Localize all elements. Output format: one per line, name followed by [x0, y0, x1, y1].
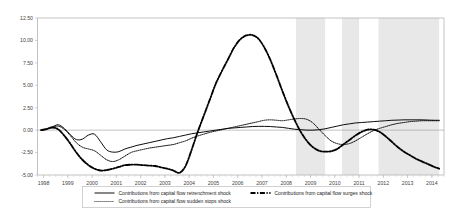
x-tick-label: 2014 — [426, 180, 438, 186]
shaded-band-1 — [342, 18, 359, 175]
x-tick-label: 2003 — [159, 180, 171, 186]
y-tick-label: 0.00 — [23, 127, 33, 133]
x-tick-label: 2009 — [305, 180, 317, 186]
y-tick-label: 5.00 — [23, 82, 33, 88]
x-tick-label: 2000 — [86, 180, 98, 186]
y-tick-label: -2.50 — [21, 149, 33, 155]
y-tick-label: 2.50 — [23, 105, 33, 111]
x-tick-label: 2008 — [280, 180, 292, 186]
x-tick-label: 2013 — [402, 180, 414, 186]
x-tick-label: 1998 — [38, 180, 50, 186]
y-tick-label: -5.00 — [21, 172, 33, 178]
shaded-band-2 — [378, 18, 439, 175]
x-tick-label: 2001 — [111, 180, 123, 186]
y-tick-label: 7.50 — [23, 60, 33, 66]
x-tick-label: 2012 — [378, 180, 390, 186]
x-tick-label: 2007 — [256, 180, 268, 186]
chart-plot-area: 12.5010.007.505.002.500.00-2.50-5.001998… — [0, 0, 449, 220]
x-tick-label: 2002 — [135, 180, 147, 186]
legend-label-sudden_stops[interactable]: Contributions from capital flow sudden s… — [119, 198, 232, 204]
y-tick-label: 12.50 — [20, 15, 33, 21]
x-tick-label: 2005 — [208, 180, 220, 186]
chart-container: 12.5010.007.505.002.500.00-2.50-5.001998… — [0, 0, 449, 220]
x-tick-label: 2011 — [353, 180, 364, 186]
x-tick-label: 2004 — [183, 180, 195, 186]
x-tick-label: 2006 — [232, 180, 244, 186]
y-tick-label: 10.00 — [20, 37, 33, 43]
line-chart-svg: 12.5010.007.505.002.500.00-2.50-5.001998… — [0, 0, 449, 220]
x-tick-label: 2010 — [329, 180, 341, 186]
legend-label-retrenchment[interactable]: Contributions from capital flow retrench… — [119, 190, 232, 196]
x-tick-label: 1999 — [62, 180, 74, 186]
legend-label-surges[interactable]: Contributions from capital flow surges s… — [275, 190, 373, 196]
